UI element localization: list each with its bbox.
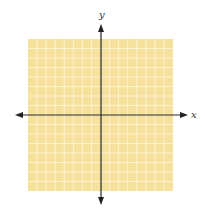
coordinate-plane: x y (0, 0, 205, 216)
y-axis-arrow-down-icon (98, 197, 104, 205)
x-axis-arrow-left-icon (15, 112, 23, 118)
y-axis-label: y (98, 9, 105, 20)
y-axis-arrow-up-icon (98, 24, 104, 32)
x-axis-arrow-right-icon (180, 112, 188, 118)
x-axis-label: x (191, 109, 197, 120)
